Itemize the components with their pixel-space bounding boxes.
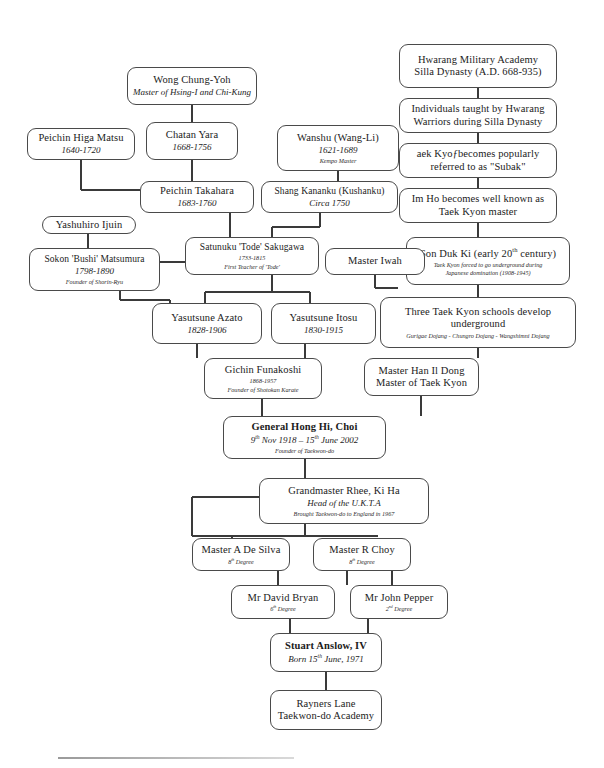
node-line1: Hwarang Military Academy <box>418 54 538 66</box>
node-line2: referred to as "Subak" <box>430 161 525 173</box>
node-line1: Three Taek Kyon schools develop <box>405 306 551 318</box>
node-line2: Master of Taek Kyon <box>376 377 467 389</box>
node-line2: 8th Degree <box>228 558 254 565</box>
node-line2: underground <box>451 318 506 330</box>
node-line3: Founder of Taekwon-do <box>275 447 334 454</box>
node-line1: Im Ho becomes well known as <box>412 193 544 205</box>
node-line2: 1828-1906 <box>188 325 227 336</box>
node-line2: Taek Kyon forced to go underground durin… <box>434 261 543 268</box>
node-line2: 1733-1815 <box>239 254 266 261</box>
node-line1: Mr David Bryan <box>248 592 319 604</box>
node-line2: Head of the U.K.T.A <box>307 498 380 509</box>
node-line2: 6th Degree <box>270 605 296 612</box>
node-john-pepper[interactable]: Mr John Pepper 2nd Degree <box>350 585 448 619</box>
node-three-schools[interactable]: Three Taek Kyon schools develop undergro… <box>380 297 576 348</box>
node-line3: First Teacher of 'Tode' <box>224 263 280 270</box>
node-line1: Yashuhiro Ijuin <box>56 219 123 231</box>
node-han-il-dong[interactable]: Master Han Il Dong Master of Taek Kyon <box>364 358 479 396</box>
node-line3: Founder of Shorin-Ryu <box>66 278 123 285</box>
node-line3: Japanese domination (1908-1945) <box>445 269 530 276</box>
node-line2: 8th Degree <box>349 558 375 565</box>
node-line2: 1798-1890 <box>75 266 114 277</box>
node-line2: 1868-1957 <box>250 377 277 384</box>
node-wong-chung-yoh[interactable]: Wong Chung-Yoh Master of Hsing-I and Chi… <box>127 67 257 105</box>
node-line2: 1640-1720 <box>62 145 101 156</box>
node-line2: 1683-1760 <box>178 198 217 209</box>
node-matsumura[interactable]: Sokon 'Bushi' Matsumura 1798-1890 Founde… <box>29 248 160 291</box>
node-line1: Stuart Anslow, IV <box>285 640 367 652</box>
node-line1: General Hong Hi, Choi <box>252 421 358 433</box>
node-shang-kananku[interactable]: Shang Kananku (Kushanku) Circa 1750 <box>261 181 398 213</box>
node-line1: Peichin Higa Matsu <box>38 132 123 144</box>
node-line1: Son Duk Ki (early 20th century) <box>420 246 556 260</box>
node-line1: Wanshu (Wang-Li) <box>297 132 379 144</box>
node-hwarang-academy[interactable]: Hwarang Military Academy Silla Dynasty (… <box>399 44 557 88</box>
node-itosu[interactable]: Yasutsune Itosu 1830-1915 <box>271 303 376 344</box>
node-line1: Gichin Funakoshi <box>225 364 302 376</box>
node-line1: Master Iwah <box>348 255 402 267</box>
node-line1: Shang Kananku (Kushanku) <box>274 186 384 197</box>
node-line1: Master Han Il Dong <box>378 365 464 377</box>
node-line2: 1668-1756 <box>173 142 212 153</box>
node-line1: Rayners Lane <box>296 698 355 710</box>
node-line1: Yasutsune Azato <box>171 312 242 324</box>
node-david-bryan[interactable]: Mr David Bryan 6th Degree <box>231 585 335 619</box>
node-line3: Gurigae Dojang - Chungro Dojang - Wangsh… <box>406 332 549 339</box>
node-line2: Circa 1750 <box>309 198 349 209</box>
node-line1: Sokon 'Bushi' Matsumura <box>44 254 144 265</box>
node-line1: Chatan Yara <box>166 129 218 141</box>
node-general-choi[interactable]: General Hong Hi, Choi 9th Nov 1918 – 15t… <box>223 416 386 459</box>
node-line3: Founder of Shotokan Karate <box>228 386 299 393</box>
node-line1: Wong Chung-Yoh <box>153 74 230 86</box>
node-individuals-taught[interactable]: Individuals taught by Hwarang Warriors d… <box>399 98 557 133</box>
node-line3: Brought Taekwon-do to England in 1967 <box>294 510 395 517</box>
node-peichin-takahara[interactable]: Peichin Takahara 1683-1760 <box>140 181 254 213</box>
node-master-iwah[interactable]: Master Iwah <box>325 248 425 275</box>
node-stuart-anslow[interactable]: Stuart Anslow, IV Born 15th June, 1971 <box>270 633 382 672</box>
node-peichin-higa-matsu[interactable]: Peichin Higa Matsu 1640-1720 <box>27 128 135 160</box>
node-son-duk-ki[interactable]: Son Duk Ki (early 20th century) Taek Kyo… <box>406 237 570 285</box>
node-line1: Peichin Takahara <box>160 185 234 197</box>
node-line2: 1621-1689 <box>319 145 358 156</box>
node-r-choy[interactable]: Master R Choy 8th Degree <box>313 538 411 571</box>
node-line2: Master of Hsing-I and Chi-Kung <box>133 87 251 98</box>
node-chatan-yara[interactable]: Chatan Yara 1668-1756 <box>146 122 238 160</box>
node-line1: Master A De Silva <box>202 544 281 556</box>
node-im-ho[interactable]: Im Ho becomes well known as Taek Kyon ma… <box>399 188 557 223</box>
node-sakugawa[interactable]: Satunuku 'Tode' Sakugawa 1733-1815 First… <box>185 237 319 275</box>
lineage-chart: Hwarang Military Academy Silla Dynasty (… <box>0 0 604 768</box>
node-line1: Yasutsune Itosu <box>290 312 358 324</box>
node-yashuhiro-ijuin[interactable]: Yashuhiro Ijuin <box>42 216 136 234</box>
node-rhee-ki-ha[interactable]: Grandmaster Rhee, Ki Ha Head of the U.K.… <box>259 478 429 524</box>
node-line2: Warriors during Silla Dynasty <box>414 116 543 128</box>
node-funakoshi[interactable]: Gichin Funakoshi 1868-1957 Founder of Sh… <box>204 358 322 399</box>
node-line1: aek Kyoƒbecomes popularly <box>417 148 540 160</box>
node-line1: Satunuku 'Tode' Sakugawa <box>200 242 304 253</box>
node-line2: 2nd Degree <box>386 605 412 612</box>
scan-edge-artifact <box>58 757 294 759</box>
node-line1: Master R Choy <box>329 544 394 556</box>
node-line2: Taek Kyon master <box>439 206 517 218</box>
node-line3: Kempo Master <box>320 157 357 164</box>
node-line1: Mr John Pepper <box>365 592 433 604</box>
node-line1: Individuals taught by Hwarang <box>411 103 544 115</box>
node-line2: Taekwon-do Academy <box>278 710 374 722</box>
node-line2: 1830-1915 <box>304 325 343 336</box>
node-line2: Silla Dynasty (A.D. 668-935) <box>414 66 541 78</box>
node-azato[interactable]: Yasutsune Azato 1828-1906 <box>152 303 262 344</box>
node-wanshu[interactable]: Wanshu (Wang-Li) 1621-1689 Kempo Master <box>277 125 399 171</box>
node-line2: Born 15th June, 1971 <box>288 653 363 665</box>
node-rayners-lane[interactable]: Rayners Lane Taekwon-do Academy <box>270 690 382 730</box>
node-de-silva[interactable]: Master A De Silva 8th Degree <box>192 538 290 571</box>
node-subak[interactable]: aek Kyoƒbecomes popularly referred to as… <box>399 143 557 178</box>
node-line2: 9th Nov 1918 – 15th June 2002 <box>251 434 359 446</box>
node-line1: Grandmaster Rhee, Ki Ha <box>288 485 399 497</box>
